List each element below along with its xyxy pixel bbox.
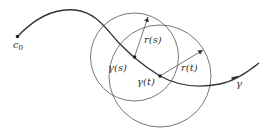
label-radius-s: r(s) <box>144 34 162 45</box>
label-gamma-t: γ(t) <box>137 76 155 87</box>
label-c0: c0 <box>13 39 23 52</box>
label-c0-sub: 0 <box>19 44 23 52</box>
label-curve-gamma: γ <box>236 78 242 89</box>
point-gamma-t <box>158 74 162 78</box>
label-radius-t: r(t) <box>181 62 198 73</box>
point-c0 <box>16 35 20 39</box>
label-gamma-s: γ(s) <box>108 62 127 73</box>
point-gamma-s <box>133 55 137 59</box>
diagram-canvas: c0 γ(s) γ(t) r(s) r(t) γ <box>0 0 273 130</box>
curve-gamma <box>18 10 260 86</box>
